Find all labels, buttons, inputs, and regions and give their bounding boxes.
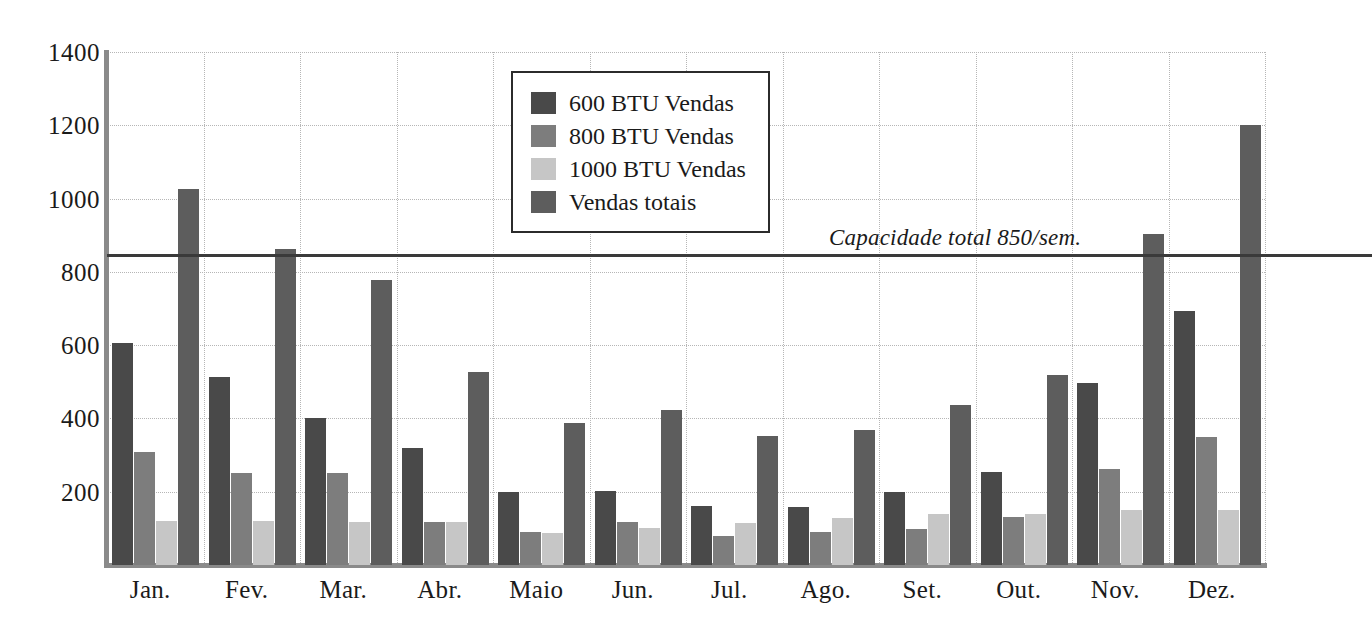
bar <box>468 372 489 565</box>
bar <box>134 452 155 565</box>
bar-group <box>783 52 880 565</box>
bar <box>1143 234 1164 565</box>
x-axis-tick-label: Jan. <box>107 575 204 605</box>
y-axis-tick-label: 1000 <box>6 186 100 211</box>
bar <box>884 492 905 565</box>
legend-swatch-icon <box>531 191 556 213</box>
bar <box>950 405 971 565</box>
bar <box>1077 383 1098 565</box>
legend-item: 800 BTU Vendas <box>531 119 746 152</box>
x-axis-tick-label: Maio <box>493 575 590 605</box>
legend-item-label: 600 BTU Vendas <box>569 91 734 115</box>
bar <box>1174 311 1195 565</box>
bar <box>661 410 682 565</box>
bar <box>788 507 809 565</box>
bar-group <box>1169 52 1266 565</box>
bar <box>424 522 445 565</box>
bar <box>156 521 177 565</box>
bar <box>691 506 712 565</box>
bar <box>735 523 756 565</box>
x-axis-tick-label: Jul. <box>686 575 783 605</box>
x-axis-tick-label: Abr. <box>397 575 494 605</box>
bar <box>498 492 519 565</box>
bar <box>1003 517 1024 565</box>
legend-item-label: 800 BTU Vendas <box>569 124 734 148</box>
bar <box>327 473 348 565</box>
bar <box>713 536 734 565</box>
bar <box>231 473 252 565</box>
legend-item: 600 BTU Vendas <box>531 86 746 119</box>
bar <box>1121 510 1142 565</box>
legend-swatch-icon <box>531 125 556 147</box>
bar <box>520 532 541 565</box>
x-axis-tick-labels: Jan.Fev.Mar.Abr.MaioJun.Jul.Ago.Set.Out.… <box>107 575 1265 605</box>
x-axis-tick-label: Ago. <box>783 575 880 605</box>
bar <box>617 522 638 565</box>
chart-legend: 600 BTU Vendas 800 BTU Vendas 1000 BTU V… <box>511 71 770 233</box>
legend-item: Vendas totais <box>531 185 746 218</box>
y-axis-tick-label: 1400 <box>6 40 100 65</box>
bar <box>1240 125 1261 565</box>
bar <box>542 533 563 565</box>
gridline-vertical <box>1265 52 1266 565</box>
bar <box>371 280 392 565</box>
x-axis-tick-label: Nov. <box>1072 575 1169 605</box>
legend-item-label: Vendas totais <box>569 190 696 214</box>
bar <box>1047 375 1068 565</box>
bar-group <box>204 52 301 565</box>
bar <box>757 436 778 565</box>
bar-group <box>1072 52 1169 565</box>
bar <box>305 418 326 565</box>
bar <box>1099 469 1120 565</box>
y-axis-tick-label: 600 <box>6 333 100 358</box>
y-axis-tick-label: 200 <box>6 479 100 504</box>
bar <box>981 472 1002 565</box>
bar <box>178 189 199 565</box>
legend-swatch-icon <box>531 158 556 180</box>
bar <box>854 430 875 565</box>
bar-group <box>107 52 204 565</box>
bar <box>564 423 585 565</box>
x-axis-tick-label: Jun. <box>590 575 687 605</box>
x-axis-tick-label: Fev. <box>204 575 301 605</box>
bar <box>209 377 230 565</box>
legend-item-label: 1000 BTU Vendas <box>569 157 746 181</box>
bar-group <box>300 52 397 565</box>
y-axis-tick-label: 800 <box>6 259 100 284</box>
bar <box>810 532 831 565</box>
bar <box>928 514 949 565</box>
bar <box>349 522 370 565</box>
x-axis-tick-label: Set. <box>879 575 976 605</box>
bar <box>402 448 423 565</box>
x-axis-tick-label: Out. <box>976 575 1073 605</box>
bar <box>1196 437 1217 565</box>
bar <box>832 518 853 565</box>
legend-item: 1000 BTU Vendas <box>531 152 746 185</box>
y-axis-tick-label: 400 <box>6 406 100 431</box>
bar <box>112 343 133 565</box>
x-axis-tick-label: Dez. <box>1169 575 1266 605</box>
bar-group <box>879 52 976 565</box>
x-axis-tick-label: Mar. <box>300 575 397 605</box>
bar <box>253 521 274 565</box>
bar <box>1025 514 1046 565</box>
bar <box>1218 510 1239 565</box>
bar-group <box>397 52 494 565</box>
y-axis-tick-label: 1200 <box>6 113 100 138</box>
y-axis-tick-labels: 200400600800100012001400 <box>0 0 100 636</box>
bar <box>639 528 660 565</box>
bar-group <box>976 52 1073 565</box>
legend-swatch-icon <box>531 92 556 114</box>
bar <box>446 522 467 565</box>
bar <box>595 491 616 565</box>
bar <box>906 529 927 565</box>
bar <box>275 249 296 565</box>
